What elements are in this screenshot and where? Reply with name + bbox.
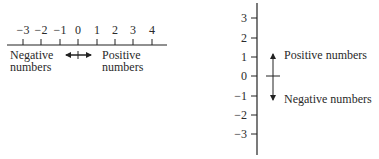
v-positive-label: Positive numbers <box>284 48 367 62</box>
h-tick-label: −3 <box>17 23 30 37</box>
h-tick-label: 4 <box>149 23 155 37</box>
h-negative-label-2: numbers <box>10 60 52 74</box>
v-negative-label: Negative numbers <box>284 92 372 106</box>
h-tick-label: 3 <box>130 23 136 37</box>
v-tick-label: −3 <box>234 127 247 141</box>
vertical-double-arrow-icon <box>266 54 280 100</box>
v-tick-label: 1 <box>241 50 247 64</box>
v-tick-label: −1 <box>234 89 247 103</box>
v-tick-label: 2 <box>241 31 247 45</box>
v-tick-label: 3 <box>241 11 247 25</box>
v-tick-label: −2 <box>234 108 247 122</box>
horizontal-number-line: −3 −2 −1 0 1 2 3 4 Negative numbers Posi… <box>7 23 167 74</box>
vertical-number-line: 3 2 1 0 −1 −2 −3 Positive numbers Negati… <box>234 3 372 155</box>
h-tick-label: −2 <box>35 23 48 37</box>
number-lines-diagram: −3 −2 −1 0 1 2 3 4 Negative numbers Posi… <box>0 0 379 159</box>
h-positive-label-2: numbers <box>102 60 144 74</box>
double-arrow-icon <box>66 51 91 59</box>
h-tick-label: 0 <box>75 23 81 37</box>
h-tick-label: −1 <box>54 23 67 37</box>
h-tick-label: 2 <box>112 23 118 37</box>
v-tick-label: 0 <box>241 69 247 83</box>
h-tick-label: 1 <box>94 23 100 37</box>
